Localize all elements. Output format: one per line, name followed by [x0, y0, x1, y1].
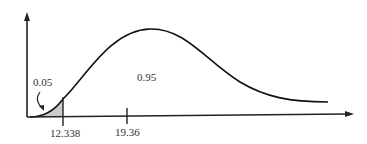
chart: 0.05 0.95 12.338 19.36	[0, 0, 367, 144]
mean-tick-label: 19.36	[115, 126, 140, 138]
tail-pointer-arrowhead-icon	[39, 105, 44, 111]
x-axis-arrow-icon	[345, 111, 354, 117]
critical-value-tick-label: 12.338	[50, 127, 81, 139]
x-axis	[27, 114, 347, 117]
density-curve	[30, 29, 328, 117]
body-area-label: 0.95	[137, 71, 157, 83]
tail-area-label: 0.05	[33, 76, 53, 88]
shaded-tail-region	[30, 99, 63, 117]
y-axis-arrow-icon	[24, 12, 30, 21]
